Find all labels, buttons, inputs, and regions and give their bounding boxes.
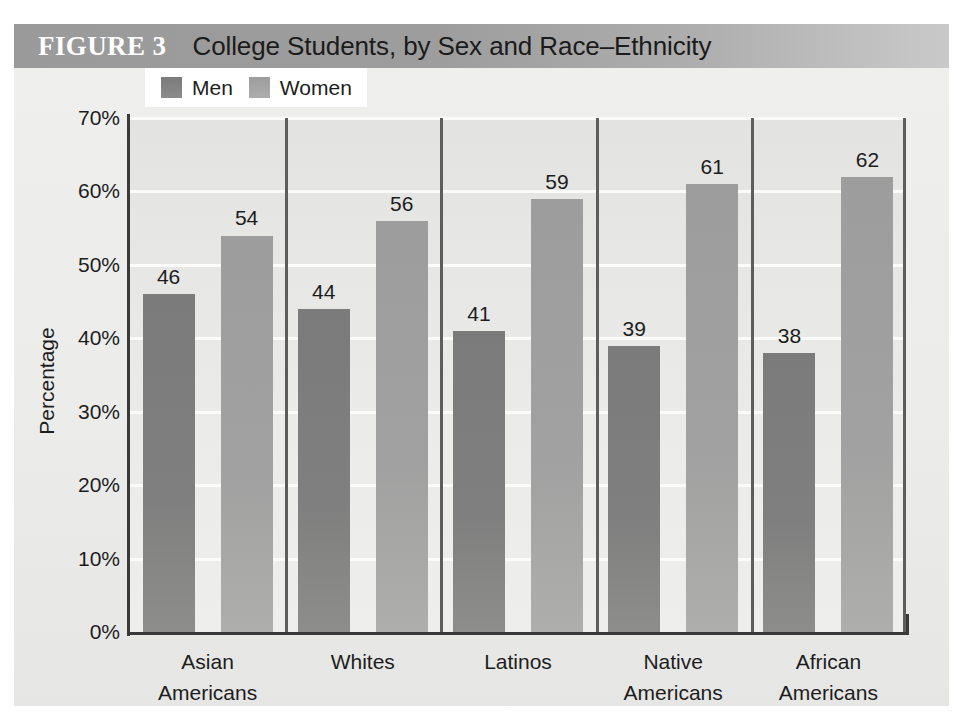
bar-value-label: 54 [207,206,287,230]
bar-women-whites [376,221,428,632]
legend-label: Women [280,76,352,100]
legend-item-women: Women [249,76,352,100]
bar-value-label: 38 [749,324,829,348]
x-axis-category-label-line1: Whites [285,646,440,677]
y-axis-tick-label: 50% [50,253,120,277]
x-axis-category-label: AfricanAmericans [751,646,906,708]
bar-men-whites [298,309,350,632]
bar-men-latinos [453,331,505,632]
x-axis-category-label-line1: Asian [130,646,285,677]
legend-label: Men [192,76,233,100]
bar-value-label: 56 [362,192,442,216]
y-axis-tick-label: 20% [50,473,120,497]
bar-women-native-americans [686,184,738,632]
category-separator [751,118,754,632]
bar-value-label: 46 [129,265,209,289]
category-separator [285,118,288,632]
category-separator [596,118,599,632]
bar-men-native-americans [608,346,660,632]
x-axis-category-label-line1: Latinos [440,646,595,677]
category-separator [903,118,906,632]
figure-header-bar: FIGURE 3 College Students, by Sex and Ra… [14,24,949,68]
bar-women-asian-americans [221,236,273,633]
y-axis-tick-label: 60% [50,179,120,203]
bar-value-label: 41 [439,302,519,326]
x-axis-category-label-line1: Native [596,646,751,677]
bar-value-label: 61 [672,155,752,179]
y-axis-tick-label: 40% [50,326,120,350]
men-swatch-icon [161,77,182,98]
figure-title: College Students, by Sex and Race–Ethnic… [192,31,711,62]
bar-value-label: 44 [284,280,364,304]
bar-value-label: 62 [827,148,907,172]
bar-men-asian-americans [143,294,195,632]
y-axis-tick-label: 0% [50,620,120,644]
x-axis-category-label-line1: African [751,646,906,677]
bar-women-african-americans [841,177,893,632]
plot-area: 46544456415939613862 [130,118,906,632]
bar-value-label: 59 [517,170,597,194]
x-axis-category-label-line2: Americans [596,677,751,708]
x-axis-category-label: AsianAmericans [130,646,285,708]
y-axis-tick-label: 30% [50,400,120,424]
x-axis-endcap [906,614,909,635]
x-axis-category-label-line2: Americans [130,677,285,708]
x-axis-line [127,632,909,635]
legend-item-men: Men [161,76,233,100]
women-swatch-icon [249,77,270,98]
bar-men-african-americans [763,353,815,632]
y-axis-tick-label: 70% [50,106,120,130]
bar-women-latinos [531,199,583,632]
gridline [130,117,906,120]
chart-legend: MenWomen [145,68,367,107]
figure-container: FIGURE 3 College Students, by Sex and Ra… [14,24,949,706]
x-axis-category-label-line2: Americans [751,677,906,708]
x-axis-category-label: Whites [285,646,440,677]
x-axis-category-label: Latinos [440,646,595,677]
category-separator [440,118,443,632]
x-axis-category-label: NativeAmericans [596,646,751,708]
y-axis-tick-labels: 0%10%20%30%40%50%60%70% [42,24,120,706]
bar-value-label: 39 [594,317,674,341]
y-axis-tick-label: 10% [50,547,120,571]
